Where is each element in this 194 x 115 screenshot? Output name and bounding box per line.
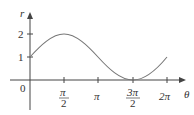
origin-label: 0 bbox=[20, 82, 26, 94]
y-axis-label: r bbox=[20, 7, 25, 19]
y-tick-2: 2 bbox=[18, 28, 24, 40]
y-tick-1: 1 bbox=[18, 51, 24, 63]
x-tick-pi-half-den: 2 bbox=[61, 97, 67, 109]
x-tick-3pi-half-den: 2 bbox=[130, 97, 136, 109]
x-tick-2pi: 2π bbox=[159, 90, 171, 102]
curve bbox=[30, 34, 167, 80]
x-axis-arrow-icon bbox=[179, 77, 186, 83]
x-tick-pi: π bbox=[94, 90, 100, 102]
x-axis-label: θ bbox=[184, 88, 190, 100]
chart: r θ 0 2 1 π 2 π 3π 2 2π bbox=[0, 0, 194, 115]
y-axis-arrow-icon bbox=[27, 12, 33, 19]
